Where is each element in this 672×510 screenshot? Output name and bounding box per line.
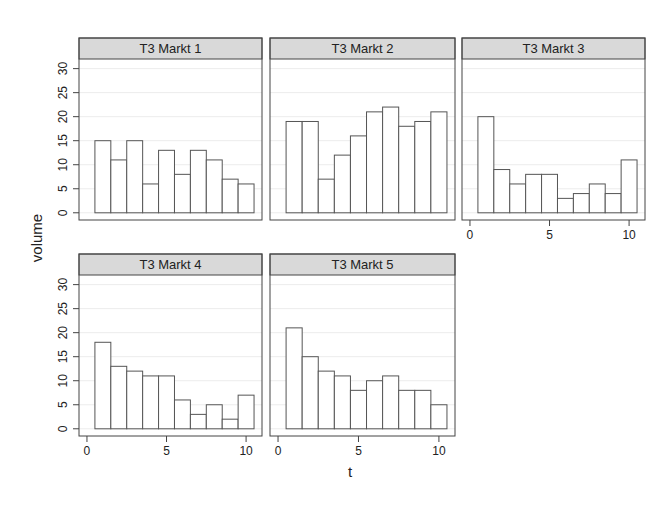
trellis-bar-chart: T3 Markt 1051015202530T3 Markt 2T3 Markt… <box>0 0 672 510</box>
bar <box>573 194 589 213</box>
bar <box>238 184 254 213</box>
bar <box>350 390 366 428</box>
bar <box>415 121 431 212</box>
x-tick-label: 0 <box>275 444 282 458</box>
bar <box>383 107 399 213</box>
bar <box>111 366 127 428</box>
panels-layer: T3 Markt 1051015202530T3 Markt 2T3 Markt… <box>56 38 645 458</box>
bar <box>222 419 238 429</box>
y-tick-label: 20 <box>56 110 70 124</box>
bar <box>111 160 127 213</box>
bar <box>143 184 159 213</box>
x-tick-label: 0 <box>467 228 474 242</box>
bar <box>318 371 334 429</box>
y-tick-label: 5 <box>56 185 70 192</box>
y-tick-label: 15 <box>56 350 70 364</box>
bar <box>127 141 143 213</box>
bar <box>431 112 447 213</box>
x-tick-label: 10 <box>432 444 446 458</box>
bar <box>334 376 350 429</box>
bar <box>494 170 510 213</box>
x-axis-label: t <box>348 463 353 480</box>
panel-2: T3 Markt 2 <box>270 38 455 220</box>
panel-title: T3 Markt 2 <box>331 41 393 56</box>
bar <box>367 112 383 213</box>
bar <box>510 184 526 213</box>
panel-1: T3 Markt 1051015202530 <box>56 38 262 220</box>
panel-4: T3 Markt 40510152025300510 <box>56 254 262 458</box>
y-tick-label: 30 <box>56 278 70 292</box>
bar <box>605 194 621 213</box>
bar <box>222 179 238 213</box>
y-tick-label: 15 <box>56 134 70 148</box>
bar <box>238 395 254 429</box>
bar <box>159 376 175 429</box>
bar <box>431 405 447 429</box>
bar <box>318 179 334 213</box>
panel-title: T3 Markt 4 <box>139 257 201 272</box>
x-tick-label: 5 <box>546 228 553 242</box>
y-tick-label: 5 <box>56 401 70 408</box>
panel-title: T3 Markt 5 <box>331 257 393 272</box>
bar <box>478 117 494 213</box>
bar <box>159 150 175 212</box>
x-tick-label: 10 <box>239 444 253 458</box>
y-tick-label: 20 <box>56 326 70 340</box>
bar <box>127 371 143 429</box>
bar <box>174 400 190 429</box>
bar <box>399 390 415 428</box>
bar <box>557 198 573 212</box>
y-tick-label: 25 <box>56 302 70 316</box>
bar <box>206 160 222 213</box>
bar <box>286 328 302 429</box>
panel-3: T3 Markt 30510 <box>462 38 645 242</box>
bar <box>542 174 558 212</box>
y-axis-label: volume <box>28 214 45 262</box>
panel-title: T3 Markt 3 <box>522 41 584 56</box>
x-tick-label: 5 <box>163 444 170 458</box>
bar <box>621 160 637 213</box>
bar <box>383 376 399 429</box>
panel-5: T3 Markt 50510 <box>270 254 455 458</box>
y-tick-label: 10 <box>56 374 70 388</box>
y-tick-label: 25 <box>56 86 70 100</box>
bar <box>174 174 190 212</box>
bar <box>334 155 350 213</box>
y-tick-label: 10 <box>56 158 70 172</box>
bar <box>190 414 206 428</box>
y-tick-label: 0 <box>56 209 70 216</box>
bar <box>399 126 415 213</box>
bar <box>526 174 542 212</box>
bar <box>302 357 318 429</box>
bar <box>95 141 111 213</box>
y-tick-label: 0 <box>56 425 70 432</box>
bar <box>95 342 111 429</box>
bar <box>589 184 605 213</box>
bar <box>190 150 206 212</box>
bar <box>302 121 318 212</box>
bar <box>415 390 431 428</box>
x-tick-label: 5 <box>355 444 362 458</box>
bar <box>286 121 302 212</box>
x-tick-label: 0 <box>84 444 91 458</box>
bar <box>350 136 366 213</box>
panel-title: T3 Markt 1 <box>139 41 201 56</box>
bar <box>206 405 222 429</box>
y-tick-label: 30 <box>56 62 70 76</box>
bar <box>367 381 383 429</box>
bar <box>143 376 159 429</box>
x-tick-label: 10 <box>622 228 636 242</box>
